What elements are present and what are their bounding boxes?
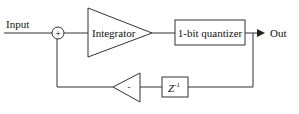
feedback-gain-label: - xyxy=(128,82,131,92)
feedback-gain-block xyxy=(113,73,140,102)
summer-sign: + xyxy=(55,28,61,39)
integrator-label: Integrator xyxy=(92,27,136,39)
quantizer-label: 1-bit quantizer xyxy=(178,27,243,39)
input-label: Input xyxy=(6,18,29,30)
sigma-delta-diagram: Input + Integrator 1-bit quantizer Out -… xyxy=(0,0,299,114)
output-label: Out xyxy=(270,27,287,39)
output-arrow-icon xyxy=(257,29,265,37)
